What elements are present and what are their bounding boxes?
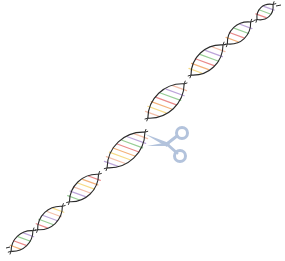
dna-helix xyxy=(4,0,281,258)
helix-segment xyxy=(138,74,193,128)
helix-segment xyxy=(61,166,106,210)
helix-segment xyxy=(251,0,280,26)
helix-segment xyxy=(182,36,232,84)
scissors-icon xyxy=(145,128,188,162)
helix-segment xyxy=(220,14,258,51)
helix-segment xyxy=(30,199,70,237)
helix-segment xyxy=(97,122,154,178)
dna-cut-illustration xyxy=(0,0,285,261)
helix-segment xyxy=(4,224,39,258)
